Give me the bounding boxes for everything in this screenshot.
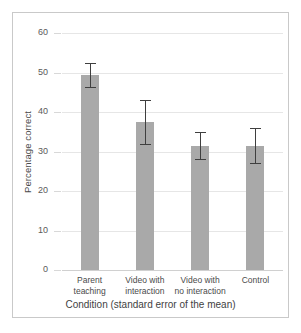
error-bar-cap-lower <box>195 159 206 160</box>
x-axis-category-line: Video with <box>117 275 172 286</box>
chart-figure: Percentage correct 0102030405060Parentte… <box>0 0 301 333</box>
gridline <box>62 73 283 74</box>
y-axis-tick <box>54 270 61 271</box>
error-bar-cap-upper <box>250 128 261 129</box>
y-axis-tick <box>54 231 61 232</box>
x-axis-category-line: interaction <box>117 286 172 297</box>
error-bar-cap-upper <box>195 132 206 133</box>
axis-baseline <box>62 270 283 271</box>
plot-area: 0102030405060ParentteachingVideo withint… <box>62 33 283 270</box>
x-axis-category-label: Parentteaching <box>62 275 117 296</box>
y-axis-tick-label: 60 <box>4 28 48 37</box>
y-axis-tick <box>54 152 61 153</box>
error-bar <box>255 128 256 164</box>
error-bar <box>90 63 91 87</box>
x-axis-category-label: Video withinteraction <box>117 275 172 296</box>
y-axis-tick-label: 30 <box>4 147 48 156</box>
y-axis-tick-label: 50 <box>4 68 48 77</box>
y-axis-tick <box>54 33 61 34</box>
y-axis-tick-label: 20 <box>4 186 48 195</box>
x-axis-label: Condition (standard error of the mean) <box>0 299 301 310</box>
x-axis-category-label: Video withno interaction <box>173 275 228 296</box>
y-axis-tick <box>54 112 61 113</box>
gridline <box>62 33 283 34</box>
error-bar-cap-upper <box>140 100 151 101</box>
y-axis-tick-label: 0 <box>4 265 48 274</box>
y-axis-tick-label: 10 <box>4 226 48 235</box>
error-bar <box>145 100 146 143</box>
y-axis-tick <box>54 73 61 74</box>
error-bar-cap-lower <box>140 144 151 145</box>
x-axis-category-line: no interaction <box>173 286 228 297</box>
error-bar-cap-lower <box>85 87 96 88</box>
error-bar <box>200 132 201 160</box>
bar <box>81 75 99 270</box>
error-bar-cap-upper <box>85 63 96 64</box>
error-bar-cap-lower <box>250 163 261 164</box>
x-axis-category-line: teaching <box>62 286 117 297</box>
x-axis-category-line: Control <box>228 275 283 286</box>
x-axis-category-line: Parent <box>62 275 117 286</box>
y-axis-tick <box>54 191 61 192</box>
bar <box>191 146 209 270</box>
x-axis-category-line: Video with <box>173 275 228 286</box>
x-axis-category-label: Control <box>228 275 283 286</box>
y-axis-tick-label: 40 <box>4 107 48 116</box>
